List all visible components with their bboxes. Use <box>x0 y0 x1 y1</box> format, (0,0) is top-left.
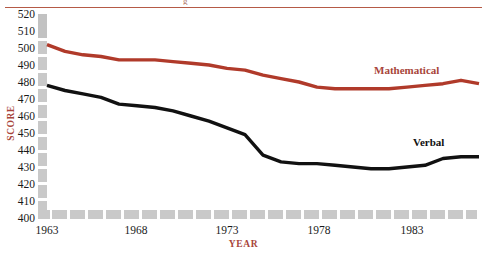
x-axis-title: YEAR <box>0 239 487 249</box>
x-tick-1963: 1963 <box>27 224 67 237</box>
x-axis-tick-labels: 1963 1968 1973 1978 1983 <box>0 224 487 240</box>
series-line-verbal <box>47 85 479 168</box>
x-tick-1973: 1973 <box>207 224 247 237</box>
series-label-mathematical: Mathematical <box>374 64 439 76</box>
x-tick-1983: 1983 <box>392 224 432 237</box>
chart-figure: g 520 510 500 490 480 470 460 450 440 43… <box>0 0 487 253</box>
x-tick-1978: 1978 <box>299 224 339 237</box>
series-label-verbal: Verbal <box>413 136 444 148</box>
x-tick-1968: 1968 <box>116 224 156 237</box>
plot-lines <box>0 0 487 253</box>
y-axis-title: SCORE <box>6 93 16 153</box>
